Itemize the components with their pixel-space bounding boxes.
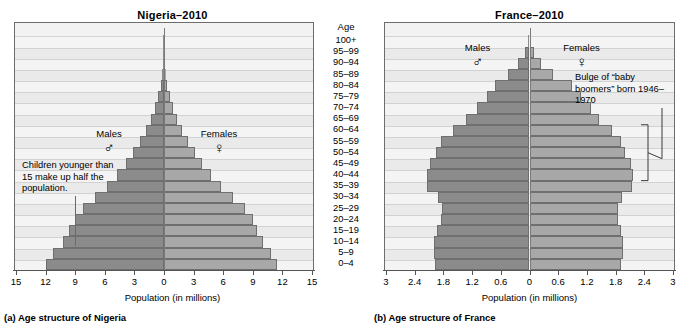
figure-root: Nigeria–2010 Population (in millions) (a… bbox=[0, 0, 689, 330]
nigeria-annotation-leader-line bbox=[75, 196, 76, 246]
x-tick-label: 3 bbox=[132, 276, 137, 287]
bar-female-60-64 bbox=[164, 125, 182, 136]
age-group-label: 20–24 bbox=[322, 214, 370, 224]
age-group-label: 10–14 bbox=[322, 236, 370, 246]
age-group-label: 85–89 bbox=[322, 69, 370, 79]
x-tick-label: 15 bbox=[11, 276, 22, 287]
x-tick-label: 15 bbox=[307, 276, 318, 287]
bar-male-70-74 bbox=[155, 102, 164, 113]
age-group-label: 25–29 bbox=[322, 203, 370, 213]
bar-female-10-14 bbox=[164, 236, 263, 247]
bar-female-20-24 bbox=[164, 214, 253, 225]
age-group-label: 70–74 bbox=[322, 102, 370, 112]
nigeria-x-axis-label: Population (in millions) bbox=[0, 292, 345, 303]
bar-male-60-64 bbox=[146, 125, 164, 136]
x-tick-mark bbox=[282, 271, 283, 275]
males-legend-label: Males bbox=[96, 128, 121, 139]
x-tick-label: 9 bbox=[73, 276, 78, 287]
bar-male-50-54 bbox=[133, 147, 164, 158]
bar-female-65-69 bbox=[164, 114, 177, 125]
age-group-label: 90–94 bbox=[322, 57, 370, 67]
age-group-label: 30–34 bbox=[322, 191, 370, 201]
age-column-header: Age bbox=[322, 21, 370, 32]
bar-female-5-9 bbox=[164, 248, 271, 259]
x-tick-mark bbox=[223, 271, 224, 275]
bar-female-70-74 bbox=[164, 102, 173, 113]
bar-male-0-4 bbox=[46, 259, 164, 270]
center-axis-line bbox=[164, 28, 165, 270]
x-tick-label: 0 bbox=[161, 276, 166, 287]
x-tick-mark bbox=[105, 271, 106, 275]
age-group-label: 60–64 bbox=[322, 124, 370, 134]
bar-female-40-44 bbox=[164, 169, 211, 180]
bar-female-45-49 bbox=[164, 158, 202, 169]
bar-male-20-24 bbox=[75, 214, 164, 225]
bar-female-35-39 bbox=[164, 181, 221, 192]
bar-female-50-54 bbox=[164, 147, 195, 158]
bar-male-5-9 bbox=[53, 248, 164, 259]
age-group-label: 75–79 bbox=[322, 91, 370, 101]
nigeria-chart-title: Nigeria–2010 bbox=[0, 9, 345, 21]
panel-france: France–2010 Population (in millions) (b)… bbox=[370, 0, 689, 330]
nigeria-caption: (a) Age structure of Nigeria bbox=[4, 312, 126, 323]
age-group-label: 65–69 bbox=[322, 113, 370, 123]
age-axis-column: Age 100+95–9990–9485–8980–8475–7970–7465… bbox=[322, 0, 370, 330]
bar-female-15-19 bbox=[164, 225, 257, 236]
nigeria-annotation-text: Children younger than 15 make up half th… bbox=[22, 160, 118, 195]
bar-female-25-29 bbox=[164, 203, 245, 214]
bar-female-0-4 bbox=[164, 259, 277, 270]
age-group-label: 100+ bbox=[322, 35, 370, 45]
bar-female-55-59 bbox=[164, 136, 188, 147]
age-group-label: 0–4 bbox=[322, 258, 370, 268]
x-tick-label: 6 bbox=[102, 276, 107, 287]
female-symbol-icon: ♀ bbox=[213, 140, 224, 155]
x-tick-mark bbox=[75, 271, 76, 275]
bar-male-25-29 bbox=[83, 203, 164, 214]
x-tick-mark bbox=[134, 271, 135, 275]
x-tick-mark bbox=[16, 271, 17, 275]
x-tick-mark bbox=[46, 271, 47, 275]
bar-male-55-59 bbox=[140, 136, 164, 147]
age-group-label: 15–19 bbox=[322, 225, 370, 235]
bar-male-10-14 bbox=[63, 236, 164, 247]
age-group-label: 35–39 bbox=[322, 180, 370, 190]
x-tick-mark bbox=[194, 271, 195, 275]
age-group-label: 5–9 bbox=[322, 247, 370, 257]
x-tick-label: 9 bbox=[250, 276, 255, 287]
bar-male-45-49 bbox=[126, 158, 164, 169]
male-symbol-icon: ♂ bbox=[103, 140, 114, 155]
x-tick-label: 3 bbox=[191, 276, 196, 287]
bar-male-65-69 bbox=[151, 114, 164, 125]
females-legend-label: Females bbox=[201, 128, 237, 139]
bar-male-40-44 bbox=[117, 169, 164, 180]
x-tick-label: 12 bbox=[40, 276, 51, 287]
bar-female-30-34 bbox=[164, 192, 233, 203]
panel-nigeria: Nigeria–2010 Population (in millions) (a… bbox=[0, 0, 345, 330]
age-group-label: 45–49 bbox=[322, 158, 370, 168]
baby-boomer-bracket bbox=[370, 0, 689, 330]
age-group-label: 55–59 bbox=[322, 136, 370, 146]
x-tick-label: 12 bbox=[277, 276, 288, 287]
x-tick-mark bbox=[253, 271, 254, 275]
x-tick-mark bbox=[164, 271, 165, 275]
age-group-label: 95–99 bbox=[322, 46, 370, 56]
age-group-label: 40–44 bbox=[322, 169, 370, 179]
x-tick-mark bbox=[312, 271, 313, 275]
x-tick-label: 6 bbox=[221, 276, 226, 287]
bar-male-15-19 bbox=[69, 225, 164, 236]
age-group-label: 80–84 bbox=[322, 80, 370, 90]
age-group-label: 50–54 bbox=[322, 147, 370, 157]
